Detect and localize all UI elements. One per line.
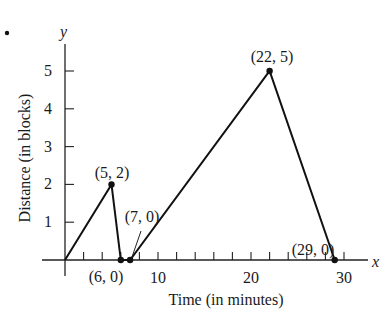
x-tick-label: 20	[243, 269, 259, 286]
data-point	[118, 257, 124, 263]
data-point	[108, 181, 114, 187]
point-label: (5, 2)	[95, 164, 130, 182]
x-tick-label: 10	[150, 269, 166, 286]
data-point	[266, 68, 272, 74]
y-tick-label: 2	[44, 175, 52, 192]
point-label: (29, 0)	[292, 241, 335, 259]
y-axis-symbol: y	[58, 23, 68, 41]
data-points	[108, 68, 338, 263]
x-tick-label: 30	[336, 269, 352, 286]
data-point	[127, 257, 133, 263]
x-axis-title: Time (in minutes)	[169, 291, 284, 309]
point-label: (22, 5)	[251, 48, 294, 66]
distance-time-chart: 10203012345 (5, 2)(6, 0)(7, 0)(22, 5)(29…	[0, 0, 386, 315]
y-tick-label: 4	[44, 100, 52, 117]
y-tick-label: 5	[44, 62, 52, 79]
y-tick-label: 3	[44, 138, 52, 155]
x-axis-symbol: x	[371, 253, 379, 270]
bullet-marker	[5, 31, 9, 35]
y-tick-label: 1	[44, 213, 52, 230]
y-axis-title: Distance (in blocks)	[16, 94, 34, 223]
point-label: (6, 0)	[89, 268, 124, 286]
point-labels: (5, 2)(6, 0)(7, 0)(22, 5)(29, 0)	[89, 48, 335, 286]
point-label: (7, 0)	[125, 208, 160, 226]
